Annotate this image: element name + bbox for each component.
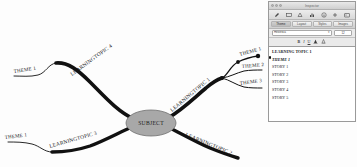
tab-layout[interactable]: Layout <box>292 21 312 27</box>
outline-list[interactable]: LEARNING TOPIC 1 THEME 1 STORY 1 STORY 2… <box>269 47 355 121</box>
selection-indicator <box>269 56 271 59</box>
branch-label-theme-1-lower-left: THEME 1 <box>5 132 28 140</box>
list-item[interactable]: STORY 2 <box>269 71 355 79</box>
list-item[interactable]: STORY 4 <box>269 86 355 94</box>
panel-toolbar[interactable] <box>269 10 355 20</box>
tab-images[interactable]: Images <box>333 21 353 27</box>
tab-theme[interactable]: Theme <box>271 21 291 27</box>
branch-learningtopic-4[interactable] <box>56 63 134 119</box>
pencil-icon[interactable] <box>273 12 280 18</box>
media-icon[interactable] <box>344 12 351 18</box>
branch-label-theme-1-upper-left: THEME 1 <box>13 66 36 74</box>
text-color-picker[interactable] <box>313 40 318 44</box>
list-item[interactable]: STORY 3 <box>269 78 355 86</box>
panel-title: Inspector <box>269 4 355 8</box>
branch-label-theme-2-right: THEME 2 <box>242 62 265 69</box>
tab-styles[interactable]: Styles <box>313 21 333 27</box>
font-size-input[interactable]: 12 <box>334 30 352 36</box>
chevron-down-icon: ▾ <box>328 30 330 35</box>
list-item[interactable]: STORY 5 <box>269 94 355 102</box>
list-item[interactable]: THEME 1 <box>269 56 355 64</box>
branch-label-learningtopic-2: LEARNINGTOPIC 2 <box>185 131 234 155</box>
add-icon[interactable] <box>332 12 339 18</box>
panel-title-bar[interactable]: Inspector <box>269 2 355 10</box>
subbranch-theme-1-lower-left[interactable] <box>8 142 52 152</box>
italic-button[interactable]: I <box>303 40 304 44</box>
font-family-select[interactable]: Helvetica ▾ <box>272 30 332 36</box>
text-style-row[interactable]: B I U <box>269 38 355 47</box>
shapes-icon[interactable] <box>297 12 304 18</box>
branch-learningtopic-1[interactable] <box>168 78 222 118</box>
center-node-label: SUBJECT <box>138 120 164 126</box>
chart-icon[interactable] <box>308 12 315 18</box>
list-item[interactable]: LEARNING TOPIC 1 <box>269 48 355 56</box>
inspector-panel[interactable]: Inspector Theme Layout Styles Images <box>268 1 356 122</box>
selection-handle[interactable] <box>236 60 240 64</box>
info-icon[interactable] <box>320 12 327 18</box>
panel-tab-bar[interactable]: Theme Layout Styles Images <box>269 20 355 29</box>
font-family-value: Helvetica <box>274 30 286 35</box>
font-controls-row[interactable]: Helvetica ▾ 12 <box>269 29 355 38</box>
underline-button[interactable]: U <box>308 40 311 44</box>
selection-handle[interactable] <box>256 54 260 58</box>
text-box-icon[interactable] <box>285 12 292 18</box>
list-item[interactable]: STORY 1 <box>269 63 355 71</box>
fill-color-picker[interactable] <box>321 40 326 44</box>
branch-label-theme-3-right: THEME 3 <box>239 78 262 86</box>
selection-handle[interactable] <box>220 76 224 80</box>
bold-button[interactable]: B <box>298 40 301 44</box>
branch-label-learningtopic-4: LEARNINGTOPIC 4 <box>69 42 113 76</box>
branch-label-learningtopic-1: LEARNINGTOPIC 1 <box>169 76 211 113</box>
